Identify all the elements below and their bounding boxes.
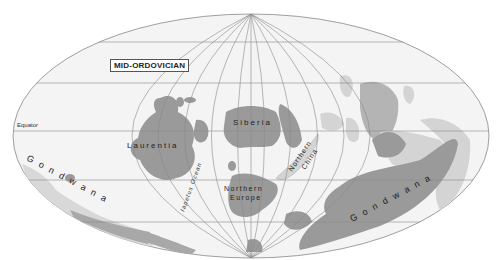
equator-label: Equator xyxy=(17,122,38,128)
siberia-label: Siberia xyxy=(233,118,272,127)
map-graphic: G o n d w a n a G o n d w a n a Iapetus … xyxy=(0,0,502,260)
northern-europe-label-2: Europe xyxy=(230,194,262,201)
northern-europe-label-1: Northern xyxy=(224,185,263,192)
laurentia-label: Laurentia xyxy=(127,141,178,150)
paleogeographic-map: G o n d w a n a G o n d w a n a Iapetus … xyxy=(0,0,502,260)
map-title: MID-ORDOVICIAN xyxy=(110,59,189,72)
